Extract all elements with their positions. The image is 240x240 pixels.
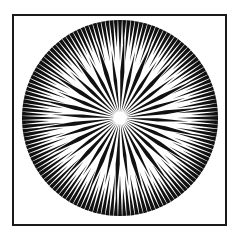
radial-starburst-pattern (0, 0, 240, 240)
spokes (22, 20, 218, 216)
